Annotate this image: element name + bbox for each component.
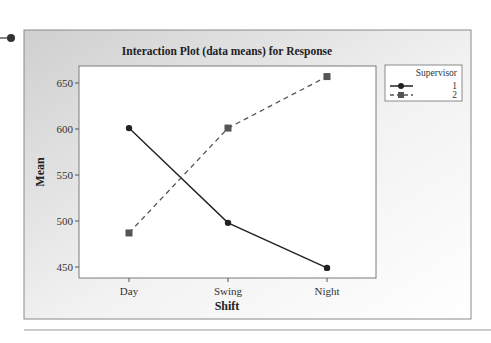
plot-area: [79, 66, 376, 278]
legend-title: Supervisor: [416, 68, 458, 78]
data-point-square: [225, 125, 232, 132]
y-tick-label: 550: [57, 169, 74, 181]
legend-marker-circle-icon: [398, 83, 404, 89]
data-point-circle: [324, 265, 330, 271]
x-axis-title: Shift: [215, 299, 240, 313]
interaction-plot: Interaction Plot (data means) for Respon…: [0, 0, 491, 343]
y-axis-title: Mean: [33, 157, 47, 187]
x-tick-label: Day: [120, 285, 139, 297]
legend-label-2: 2: [452, 90, 457, 100]
data-point-circle: [225, 220, 231, 226]
data-point-circle: [126, 125, 132, 131]
y-tick-label: 650: [57, 77, 74, 89]
x-tick-label: Swing: [214, 285, 243, 297]
x-tick-label: Night: [314, 285, 339, 297]
data-point-square: [324, 73, 331, 80]
legend: Supervisor 1 2: [385, 65, 462, 101]
chart-title: Interaction Plot (data means) for Respon…: [122, 45, 332, 58]
y-tick-label: 450: [57, 261, 74, 273]
y-tick-label: 600: [57, 123, 74, 135]
legend-marker-square-icon: [398, 92, 404, 98]
data-point-square: [126, 229, 133, 236]
y-tick-label: 500: [57, 215, 74, 227]
margin-bullet-icon: [7, 34, 15, 42]
